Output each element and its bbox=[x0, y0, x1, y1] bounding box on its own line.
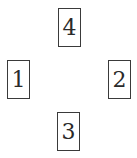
box-label: 4 bbox=[63, 15, 77, 40]
box-label: 3 bbox=[62, 119, 76, 144]
box-label: 2 bbox=[113, 67, 127, 92]
box-bottom: 3 bbox=[57, 112, 80, 151]
box-top: 4 bbox=[58, 8, 81, 47]
box-right: 2 bbox=[108, 60, 131, 99]
box-left: 1 bbox=[7, 60, 30, 99]
box-label: 1 bbox=[12, 67, 26, 92]
